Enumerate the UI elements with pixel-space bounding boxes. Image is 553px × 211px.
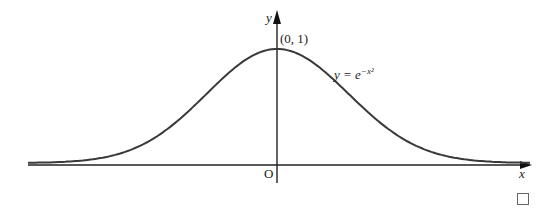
y-axis-label: y — [266, 11, 272, 24]
gaussian-curve — [28, 49, 530, 163]
max-point-label: (0, 1) — [280, 32, 308, 45]
equation-exponent: −x² — [361, 66, 374, 76]
qed-box-icon — [517, 193, 529, 205]
x-axis-label: x — [519, 167, 525, 180]
gaussian-plot — [0, 0, 553, 211]
equation-label: y = e−x² — [334, 67, 374, 81]
origin-label: O — [264, 167, 273, 180]
equation-lhs: y = — [334, 67, 355, 82]
y-axis-arrow-icon — [273, 10, 281, 24]
